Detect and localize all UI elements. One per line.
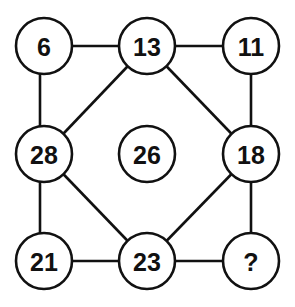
node-value: 13	[133, 33, 161, 61]
node-top-left: 6	[16, 18, 72, 74]
node-middle-right: 18	[223, 126, 279, 182]
node-bottom-left: 21	[16, 233, 72, 289]
node-middle-left: 28	[16, 126, 72, 182]
number-puzzle-diagram: 6 13 11 28 26 18 21 23 ?	[0, 0, 295, 307]
node-center: 26	[119, 126, 175, 182]
node-value: 28	[30, 141, 58, 169]
node-top-right: 11	[223, 18, 279, 74]
node-value: 23	[133, 248, 161, 276]
node-bottom-right-unknown: ?	[223, 233, 279, 289]
node-value: 11	[238, 33, 265, 61]
node-value: 6	[37, 33, 51, 61]
node-bottom-center: 23	[119, 233, 175, 289]
node-value: 21	[30, 248, 58, 276]
node-value: 18	[237, 141, 265, 169]
node-value: 26	[133, 141, 161, 169]
node-top-center: 13	[119, 18, 175, 74]
question-mark: ?	[243, 248, 258, 276]
